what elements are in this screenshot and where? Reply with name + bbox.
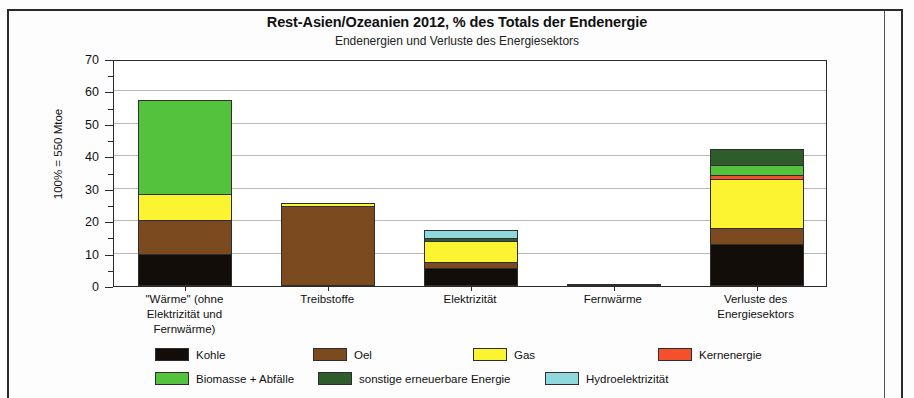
bar-segment[interactable] [281,206,375,286]
x-axis-tick-mark [328,286,329,291]
legend-color-swatch [313,348,347,361]
x-axis-tick-mark [757,286,758,291]
legend-label: Oel [354,349,372,361]
x-axis-category-line: Elektrizität und [113,307,256,322]
y-axis-tick-mark [105,60,113,61]
legend-label: Hydroelektrizität [586,373,668,385]
stacked-bar[interactable] [138,100,232,286]
bar-slot [542,61,685,286]
y-axis-tick-label: 40 [59,150,99,164]
x-axis-category-line: Elektrizität [399,292,542,307]
bar-segment[interactable] [424,268,518,286]
x-axis-category-label: Elektrizität [399,292,542,307]
legend-item[interactable]: Gas [473,348,535,361]
y-axis-tick-label: 50 [59,118,99,132]
bar-segment[interactable] [710,165,804,175]
stacked-bar[interactable] [281,203,375,286]
legend-item[interactable]: Oel [313,348,372,361]
x-axis-category-line: Energiesektors [684,307,827,322]
y-axis-tick-mark [105,287,113,288]
y-axis-tick-label: 10 [59,248,99,262]
bar-segment[interactable] [424,241,518,263]
legend-color-swatch [545,372,579,385]
legend-item[interactable]: Kernenergie [658,348,762,361]
legend-item[interactable]: Hydroelektrizität [545,372,668,385]
y-axis-tick-label: 60 [59,85,99,99]
legend-color-swatch [318,372,352,385]
y-axis-tick-label: 20 [59,215,99,229]
y-axis-tick-mark [105,157,113,158]
bar-segment[interactable] [138,220,232,254]
x-axis-tick-mark [185,286,186,291]
x-axis-category-line: Verluste des [684,292,827,307]
bar-segment[interactable] [710,228,804,244]
bar-segment[interactable] [710,244,804,286]
stacked-bar[interactable] [424,230,518,286]
stacked-bar[interactable] [710,149,804,286]
legend-label: Biomasse + Abfälle [196,373,294,385]
y-axis-tick-label: 30 [59,183,99,197]
x-axis-category-line: Treibstoffe [256,292,399,307]
bar-slot [685,61,828,286]
x-axis-category-label: Verluste desEnergiesektors [684,292,827,322]
y-axis: 010203040506070 [0,60,113,287]
x-axis-tick-mark [471,286,472,291]
legend-item[interactable]: Biomasse + Abfälle [155,372,294,385]
y-axis-tick-mark [105,125,113,126]
page-border-inner-right [884,11,885,398]
legend-color-swatch [473,348,507,361]
y-axis-tick-label: 70 [59,53,99,67]
x-axis-tick-mark [614,286,615,291]
legend-label: Kernenergie [699,349,762,361]
x-axis-category-label: Fernwärme [541,292,684,307]
y-axis-tick-mark [105,92,113,93]
legend-label: Gas [514,349,535,361]
x-axis-category-line: Fernwärme) [113,322,256,337]
bar-slot [400,61,543,286]
legend-item[interactable]: sonstige erneuerbare Energie [318,372,511,385]
plot-area [113,60,827,287]
x-axis-category-label: Treibstoffe [256,292,399,307]
chart-subtitle: Endenergien und Verluste des Energiesekt… [0,34,914,48]
bar-segment[interactable] [138,194,232,221]
y-axis-tick-mark [105,190,113,191]
bar-slot [257,61,400,286]
legend-label: Kohle [196,349,225,361]
bar-segment[interactable] [138,254,232,286]
bar-segment[interactable] [710,149,804,165]
x-axis-labels: "Wärme" (ohneElektrizität undFernwärme)T… [113,292,827,352]
chart-title: Rest-Asien/Ozeanien 2012, % des Totals d… [0,14,914,30]
x-axis-category-line: "Wärme" (ohne [113,292,256,307]
x-axis-category-line: Fernwärme [541,292,684,307]
chart-page: Rest-Asien/Ozeanien 2012, % des Totals d… [0,0,914,398]
legend-item[interactable]: Kohle [155,348,225,361]
y-axis-tick-mark [105,255,113,256]
legend-color-swatch [658,348,692,361]
y-axis-tick-label: 0 [59,280,99,294]
legend-label: sonstige erneuerbare Energie [359,373,511,385]
y-axis-tick-mark [105,222,113,223]
bar-slot [114,61,257,286]
bar-segment[interactable] [710,179,804,228]
bar-segment[interactable] [138,100,232,194]
legend-color-swatch [155,348,189,361]
bar-segment[interactable] [424,230,518,238]
chart-legend: KohleOelGasKernenergieBiomasse + Abfälle… [113,348,873,392]
bar-group [114,61,826,286]
legend-color-swatch [155,372,189,385]
x-axis-category-label: "Wärme" (ohneElektrizität undFernwärme) [113,292,256,337]
